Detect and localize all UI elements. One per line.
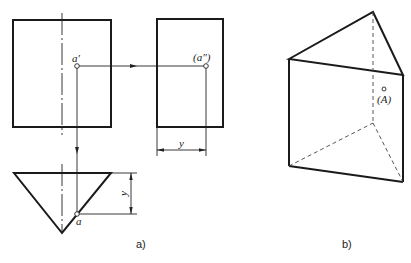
label-a-prime: a′ bbox=[72, 52, 81, 64]
side-view: y (a″) bbox=[157, 19, 223, 156]
projection-diagram: a′ y (a″) y a a) (A) b) bbox=[0, 0, 411, 263]
arrow-down-icon bbox=[75, 147, 79, 154]
label-a-double-prime: (a″) bbox=[193, 51, 211, 64]
top-view: y a bbox=[14, 164, 137, 233]
prism-top-face bbox=[289, 12, 403, 75]
label-A: (A) bbox=[377, 93, 391, 106]
prism-hidden-edge-bottom-right bbox=[373, 123, 403, 182]
dim-arrow-left-icon bbox=[157, 148, 164, 151]
prism-hidden-edge-bottom-left bbox=[289, 123, 373, 166]
dim-arrow-right-icon bbox=[199, 148, 206, 151]
side-dimension-label: y bbox=[178, 137, 184, 149]
point-a-prime bbox=[75, 64, 80, 69]
top-dimension-label: y bbox=[117, 191, 129, 197]
top-view-triangle bbox=[14, 173, 111, 233]
label-a: a bbox=[76, 215, 82, 227]
side-view-rectangle bbox=[157, 19, 223, 127]
prism: (A) bbox=[289, 12, 403, 182]
dim-arrow-down-icon bbox=[129, 207, 132, 214]
arrow-right-icon bbox=[130, 64, 137, 68]
point-A bbox=[382, 87, 386, 91]
caption-a: a) bbox=[136, 238, 146, 250]
prism-edge-bottom-front bbox=[289, 166, 403, 182]
dim-arrow-up-icon bbox=[129, 173, 132, 180]
caption-b: b) bbox=[342, 238, 352, 250]
front-view bbox=[13, 13, 111, 135]
point-a-double-prime bbox=[204, 64, 209, 69]
